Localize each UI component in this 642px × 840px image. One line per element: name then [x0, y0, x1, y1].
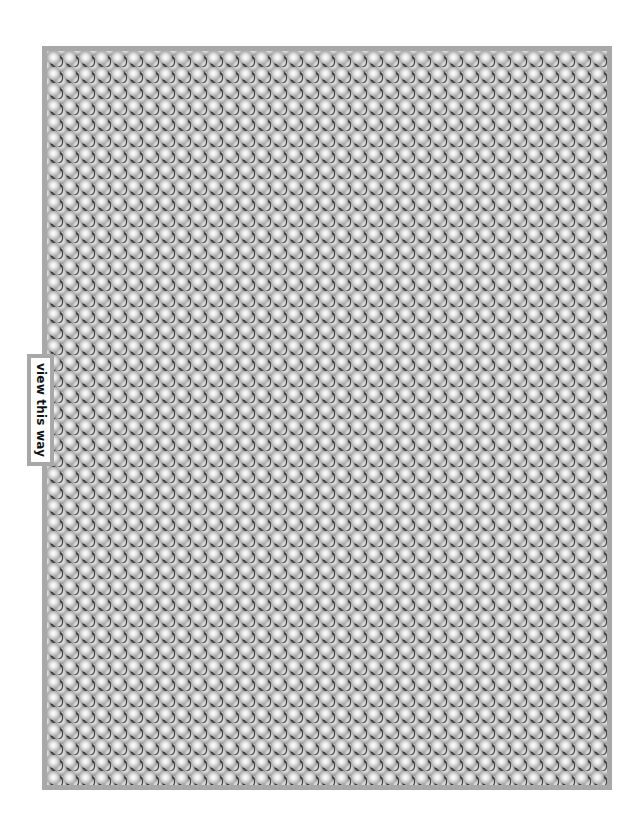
orientation-label-text: view this way — [34, 363, 48, 457]
orientation-label-box: view this way — [31, 358, 50, 462]
stereogram-frame — [42, 46, 612, 790]
stereogram-texture — [47, 51, 607, 785]
orientation-label-tab: view this way — [27, 354, 54, 466]
